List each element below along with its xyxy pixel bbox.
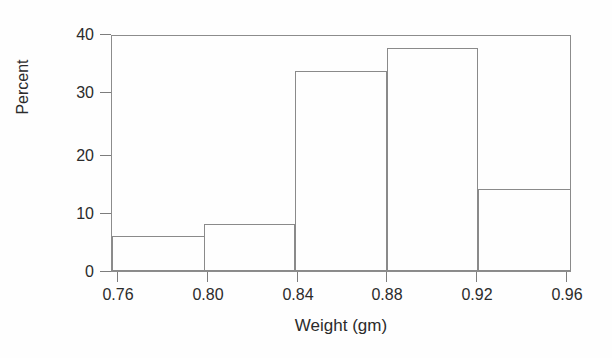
plot-area xyxy=(111,35,571,272)
y-tick-mark xyxy=(100,155,111,156)
x-tick-label: 0.80 xyxy=(182,285,234,305)
x-tick-mark xyxy=(117,272,118,282)
x-tick-label: 0.76 xyxy=(92,285,144,305)
y-tick-label: 10 xyxy=(76,204,94,224)
x-axis: 0.76 0.80 0.84 0.88 0.92 0.96 Weight (gm… xyxy=(0,272,612,358)
x-tick-mark xyxy=(566,272,567,282)
x-tick-label: 0.92 xyxy=(451,285,503,305)
histogram-figure: 0 10 20 30 40 Percent 0.76 xyxy=(0,0,612,358)
histogram-bar xyxy=(295,71,387,271)
y-tick-mark xyxy=(100,213,111,214)
y-tick-mark xyxy=(100,34,111,35)
y-tick-mark xyxy=(100,92,111,93)
x-tick-mark xyxy=(207,272,208,282)
y-tick-label: 20 xyxy=(76,146,94,166)
x-tick-label: 0.84 xyxy=(272,285,324,305)
histogram-bar xyxy=(387,48,478,271)
x-tick-mark xyxy=(386,272,387,282)
x-tick-label: 0.96 xyxy=(541,285,593,305)
histogram-bar xyxy=(478,189,571,271)
y-axis-title: Percent xyxy=(14,32,32,142)
histogram-bar xyxy=(112,236,205,271)
y-tick-label: 30 xyxy=(76,83,94,103)
histogram-bar xyxy=(204,224,295,271)
x-tick-mark xyxy=(297,272,298,282)
y-tick-label: 40 xyxy=(76,25,94,45)
x-axis-title: Weight (gm) xyxy=(111,316,571,336)
x-tick-mark xyxy=(476,272,477,282)
x-tick-label: 0.88 xyxy=(361,285,413,305)
